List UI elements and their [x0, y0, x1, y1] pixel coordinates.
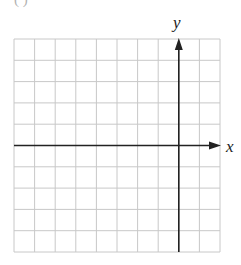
coordinate-grid	[0, 0, 241, 265]
y-axis-label: y	[173, 14, 181, 31]
x-axis-arrow-icon	[209, 142, 221, 150]
y-axis-arrow-icon	[175, 38, 183, 50]
x-axis-label: x	[226, 138, 234, 155]
